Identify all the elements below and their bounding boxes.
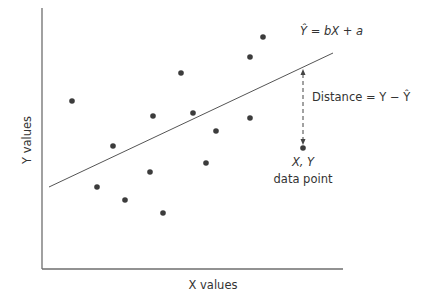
data-point	[160, 210, 166, 216]
equation-label: Ŷ = bX + a	[300, 23, 363, 38]
data-point	[247, 115, 253, 121]
arrowhead-down-icon	[301, 139, 306, 145]
data-point	[150, 113, 156, 119]
data-point	[94, 184, 100, 190]
data-point	[247, 54, 253, 60]
regression-line	[49, 53, 333, 187]
data-point	[178, 70, 184, 76]
arrowhead-up-icon	[301, 69, 306, 75]
y-axis-label: Y values	[20, 116, 34, 165]
data-point	[110, 143, 116, 149]
regression-scatter-chart: Ŷ = bX + a Distance = Y − Ŷ X, Y data po…	[0, 0, 422, 304]
data-point	[147, 169, 153, 175]
data-point	[122, 197, 128, 203]
data-point	[300, 145, 306, 151]
distance-label: Distance = Y − Ŷ	[312, 89, 411, 104]
data-point	[69, 98, 75, 104]
point-label-xy: X, Y	[291, 155, 315, 169]
point-label-data-point: data point	[274, 172, 333, 186]
data-point	[190, 110, 196, 116]
data-points	[69, 34, 306, 216]
x-axis-label: X values	[189, 278, 238, 292]
data-point	[213, 128, 219, 134]
distance-arrow	[301, 69, 306, 145]
data-point	[260, 34, 266, 40]
data-point	[203, 160, 209, 166]
